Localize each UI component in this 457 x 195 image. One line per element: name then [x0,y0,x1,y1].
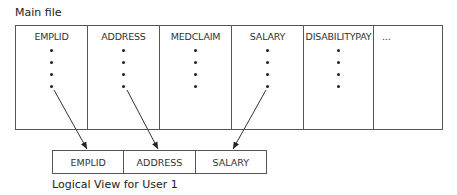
logical-col-salary: SALARY [196,151,266,173]
logical-col-address: ADDRESS [124,151,195,173]
logical-view-table: EMPLID ADDRESS SALARY [52,150,267,174]
arrow-address [127,90,158,149]
arrow-salary [233,90,266,149]
logical-view-title: Logical View for User 1 [52,178,178,191]
arrow-emplid [54,90,87,149]
logical-col-emplid: EMPLID [53,151,124,173]
